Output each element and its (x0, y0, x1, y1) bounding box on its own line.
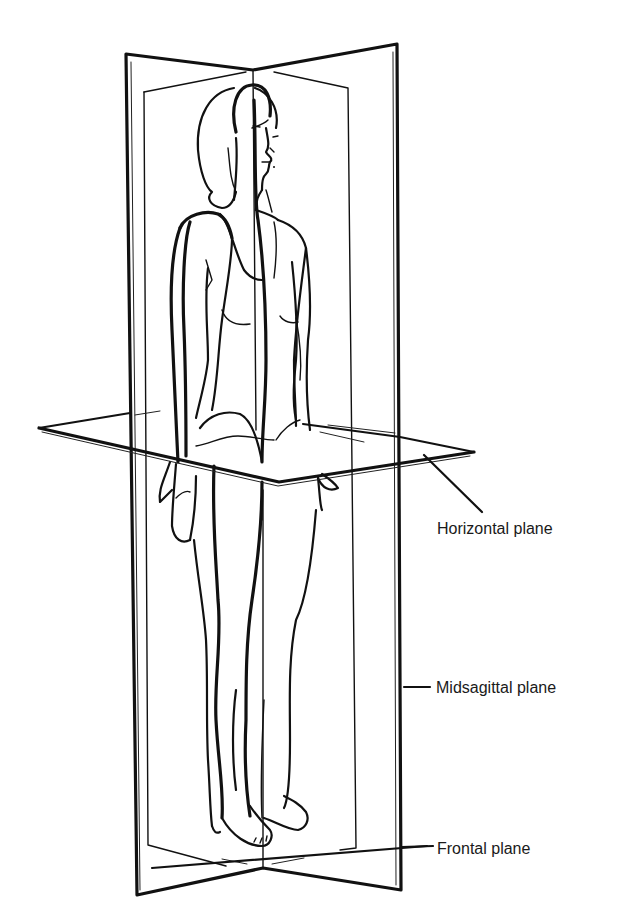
anatomical-planes-figure: Horizontal plane Midsagittal plane Front… (0, 0, 622, 923)
midsagittal-plane-label: Midsagittal plane (436, 680, 556, 696)
label-leaders (402, 455, 482, 847)
frontal-plane-label: Frontal plane (437, 841, 530, 857)
horizontal-plane-leader (424, 455, 482, 512)
horizontal-plane-label: Horizontal plane (437, 521, 553, 537)
frontal-plane-leader (402, 846, 433, 847)
planes-illustration (0, 0, 622, 923)
